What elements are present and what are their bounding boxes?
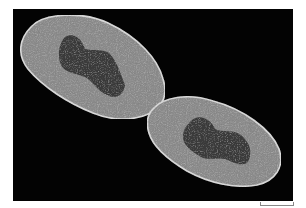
- left-cell: [21, 15, 165, 119]
- bacterium-illustration: [13, 9, 293, 201]
- right-cell: [147, 97, 280, 186]
- micrograph: [13, 9, 293, 201]
- scale-bar: [260, 202, 294, 206]
